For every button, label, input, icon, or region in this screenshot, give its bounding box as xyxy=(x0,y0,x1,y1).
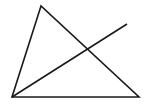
triangle-diagram xyxy=(0,0,149,106)
triangle xyxy=(12,6,139,97)
crossing-line-segment xyxy=(12,24,127,97)
